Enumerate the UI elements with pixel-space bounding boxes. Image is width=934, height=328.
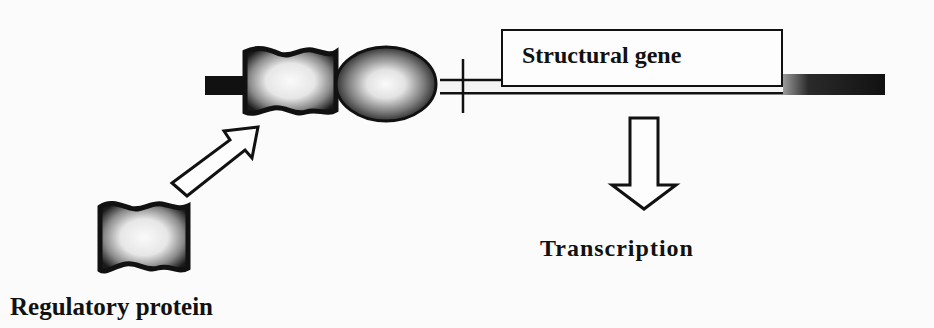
transcription-arrow-icon	[612, 118, 676, 209]
diagram-canvas	[0, 0, 934, 328]
binding-arrow-icon	[172, 127, 258, 196]
free-regulatory-protein	[100, 203, 188, 271]
regulatory-protein-label: Regulatory protein	[10, 293, 213, 321]
structural-gene-label: Structural gene	[522, 42, 681, 69]
bound-regulatory-protein	[245, 48, 336, 113]
rna-polymerase	[336, 47, 436, 121]
transcription-label: Transcription	[540, 235, 694, 262]
